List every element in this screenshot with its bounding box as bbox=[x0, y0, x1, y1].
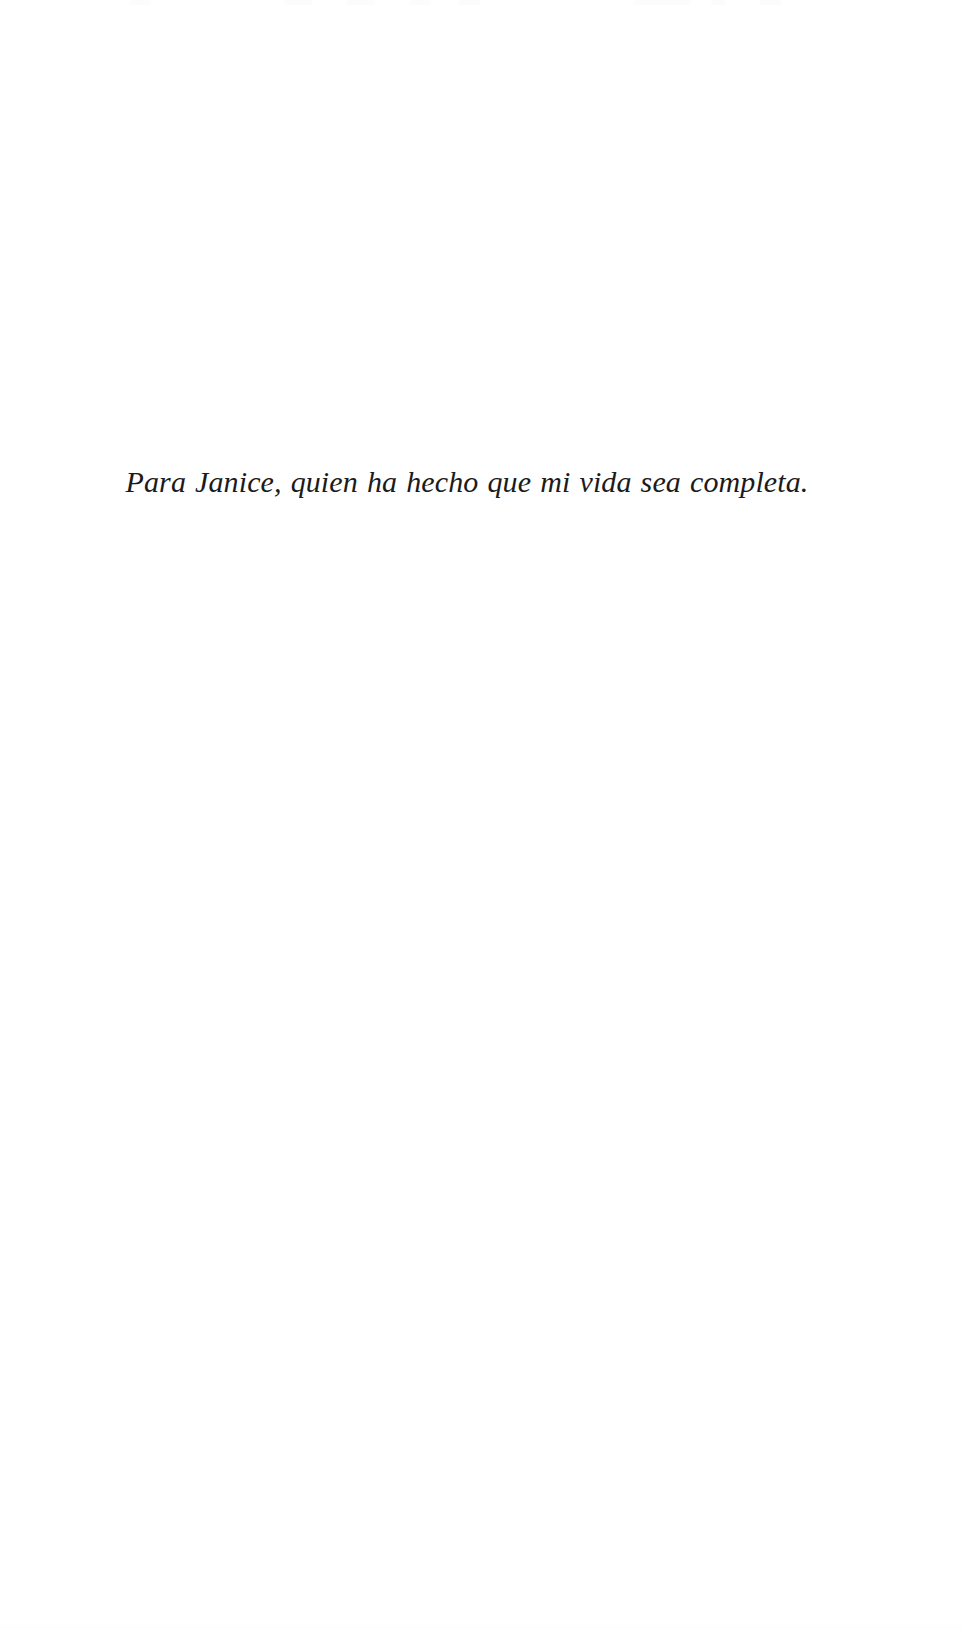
dedication-block: Para Janice, quien ha hecho que mi vida … bbox=[0, 432, 962, 532]
scan-artifact-bottom-edge bbox=[0, 1623, 962, 1629]
dedication-page: Para Janice, quien ha hecho que mi vida … bbox=[0, 0, 962, 1629]
scan-artifact-top-edge bbox=[130, 0, 830, 5]
dedication-text: Para Janice, quien ha hecho que mi vida … bbox=[126, 462, 809, 502]
